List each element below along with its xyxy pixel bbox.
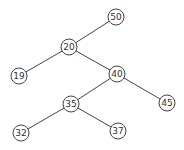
node-label: 20 — [63, 42, 75, 52]
tree-edge — [21, 104, 71, 133]
tree-node: 35 — [63, 96, 79, 112]
node-label: 40 — [111, 69, 123, 79]
tree-node: 20 — [61, 39, 77, 55]
tree-node: 50 — [108, 9, 124, 25]
node-label: 50 — [110, 12, 122, 22]
tree-node: 19 — [11, 68, 27, 84]
tree-node: 37 — [110, 123, 126, 139]
tree-node: 40 — [109, 66, 125, 82]
node-label: 19 — [13, 71, 25, 81]
node-label: 37 — [112, 126, 123, 136]
node-label: 32 — [15, 128, 26, 138]
node-label: 45 — [161, 98, 172, 108]
tree-edge — [117, 74, 167, 103]
tree-edge — [19, 47, 69, 76]
tree-node: 45 — [159, 95, 175, 111]
binary-tree-diagram: 5020194045353237 — [0, 0, 184, 150]
tree-node: 32 — [13, 125, 29, 141]
node-label: 35 — [65, 99, 76, 109]
